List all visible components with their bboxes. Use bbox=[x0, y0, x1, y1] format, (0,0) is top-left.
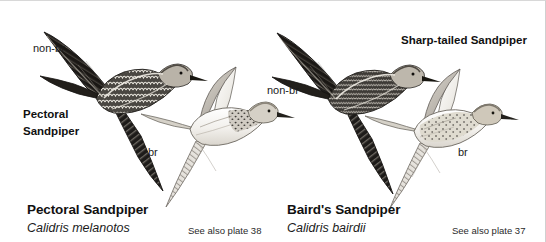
caption-scientific-name-left: Calidris melanotos bbox=[27, 220, 148, 236]
annotation-nonbreeding-left: non-br bbox=[33, 41, 65, 55]
caption-pectoral-sandpiper: Pectoral Sandpiper Calidris melanotos bbox=[27, 202, 148, 236]
plate-reference-right: See also plate 37 bbox=[452, 225, 525, 236]
annotation-breeding-left: br bbox=[148, 145, 158, 159]
figure-sharptailed-breeding bbox=[365, 69, 519, 208]
annotation-pectoral-sandpiper-inline: Pectoral Sandpiper bbox=[23, 106, 79, 139]
annotation-breeding-right: br bbox=[458, 145, 468, 159]
annotation-nonbreeding-right: non-br bbox=[267, 83, 299, 97]
caption-scientific-name-right: Calidris bairdii bbox=[287, 220, 400, 236]
annotation-pectoral-line2: Sandpiper bbox=[23, 123, 79, 140]
bird-identification-plate: non-br Pectoral Sandpiper br non-br Shar… bbox=[0, 0, 546, 242]
caption-bairds-sandpiper: Baird's Sandpiper Calidris bairdii bbox=[287, 202, 400, 236]
caption-common-name-left: Pectoral Sandpiper bbox=[27, 202, 148, 219]
annotation-sharp-tailed-sandpiper: Sharp-tailed Sandpiper bbox=[401, 33, 527, 48]
figure-bairds-nonbreeding bbox=[272, 33, 441, 194]
caption-common-name-right: Baird's Sandpiper bbox=[287, 202, 400, 219]
plate-reference-left: See also plate 38 bbox=[188, 225, 261, 236]
annotation-pectoral-line1: Pectoral bbox=[23, 106, 79, 123]
